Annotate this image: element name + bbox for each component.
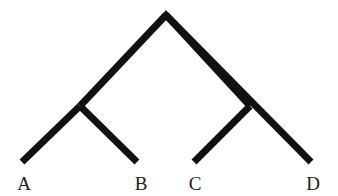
leaf-label-c: C [189, 173, 202, 194]
tree-diagram: A B C D [0, 0, 338, 196]
branch-to-a [22, 106, 80, 162]
branch-to-c [194, 106, 250, 162]
leaf-label-d: D [306, 173, 320, 194]
leaf-label-a: A [17, 173, 31, 194]
branch-to-d [166, 15, 311, 162]
root-apex [160, 10, 172, 17]
branch-to-b [80, 106, 137, 162]
leaf-label-b: B [135, 173, 148, 194]
branch-root-left [80, 15, 166, 106]
tree-svg: A B C D [0, 0, 338, 196]
